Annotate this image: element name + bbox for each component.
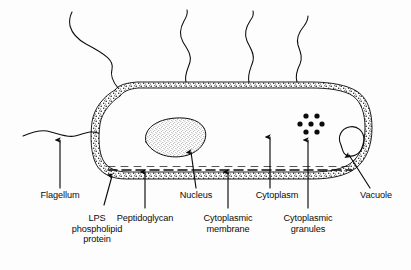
label-nucleus: Nucleus: [180, 190, 213, 201]
label-peptidoglycan: Peptidoglycan: [117, 213, 173, 224]
cell-envelope: [91, 82, 372, 179]
leader-lps: [104, 176, 112, 205]
label-cytoplasm: Cytoplasm: [256, 190, 299, 201]
nucleus-shape: [145, 118, 205, 157]
label-flagellum: Flagellum: [41, 190, 80, 201]
peptidoglycan-layer: [108, 167, 352, 171]
label-cytoplasmic-membrane: Cytoplasmic membrane: [204, 213, 253, 234]
cytoplasmic-granules-group: [297, 113, 324, 134]
figure-canvas: Flagellum LPS phospholipid protein Pepti…: [0, 0, 411, 270]
label-cytoplasmic-granules: Cytoplasmic granules: [284, 213, 333, 234]
flagellum-upper-left: [70, 12, 118, 88]
vacuole-shape: [339, 127, 364, 156]
flagellum-top-1: [180, 10, 190, 82]
flagella-group: [23, 10, 308, 136]
label-lps-phospholipid-protein: LPS phospholipid protein: [72, 213, 122, 245]
label-vacuole: Vacuole: [360, 190, 392, 201]
flagellum-top-2: [246, 11, 254, 82]
flagellum-left: [23, 131, 98, 137]
flagellum-top-3: [296, 16, 308, 82]
